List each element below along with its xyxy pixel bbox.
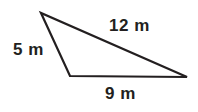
side-label-hypotenuse: 12 m [109,17,150,34]
side-label-left: 5 m [13,41,44,58]
triangle-figure: 12 m 5 m 9 m [0,0,198,112]
side-label-base: 9 m [105,85,136,102]
